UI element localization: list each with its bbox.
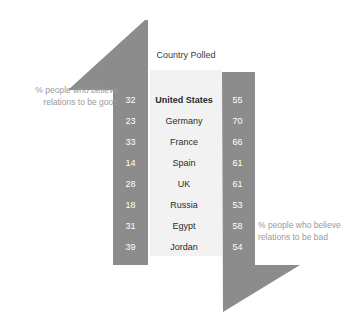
- table-row: 32 United States 55: [113, 90, 255, 111]
- good-value: 32: [113, 90, 148, 111]
- country-name: Egypt: [148, 216, 220, 237]
- country-name: France: [148, 132, 220, 153]
- table-row: 39 Jordan 54: [113, 237, 255, 258]
- good-axis-label: % people who believe relations to be goo…: [8, 84, 118, 108]
- good-value: 31: [113, 216, 148, 237]
- country-name: Spain: [148, 153, 220, 174]
- bad-value: 53: [220, 195, 255, 216]
- good-axis-label-line2: relations to be good: [8, 96, 118, 108]
- country-name: UK: [148, 174, 220, 195]
- bad-value: 61: [220, 174, 255, 195]
- bad-axis-label-line1: % people who believe: [258, 219, 362, 231]
- bad-value: 61: [220, 153, 255, 174]
- country-name: United States: [148, 90, 220, 111]
- table-row: 14 Spain 61: [113, 153, 255, 174]
- bad-axis-label: % people who believe relations to be bad: [258, 219, 362, 243]
- table-row: 23 Germany 70: [113, 111, 255, 132]
- table-row: 31 Egypt 58: [113, 216, 255, 237]
- country-name: Germany: [148, 111, 220, 132]
- country-column-header: Country Polled: [150, 50, 222, 60]
- good-value: 23: [113, 111, 148, 132]
- bad-value: 55: [220, 90, 255, 111]
- bad-value: 70: [220, 111, 255, 132]
- good-axis-label-line1: % people who believe: [8, 84, 118, 96]
- country-name: Jordan: [148, 237, 220, 258]
- good-value: 39: [113, 237, 148, 258]
- good-value: 14: [113, 153, 148, 174]
- bad-value: 58: [220, 216, 255, 237]
- bad-axis-label-line2: relations to be bad: [258, 231, 362, 243]
- good-value: 18: [113, 195, 148, 216]
- bad-value: 66: [220, 132, 255, 153]
- data-rows: 32 United States 55 23 Germany 70 33 Fra…: [113, 90, 255, 258]
- table-row: 28 UK 61: [113, 174, 255, 195]
- good-value: 33: [113, 132, 148, 153]
- chart-canvas: Country Polled 32 United States 55 23 Ge…: [0, 0, 363, 330]
- table-row: 33 France 66: [113, 132, 255, 153]
- table-row: 18 Russia 53: [113, 195, 255, 216]
- bad-value: 54: [220, 237, 255, 258]
- country-name: Russia: [148, 195, 220, 216]
- good-value: 28: [113, 174, 148, 195]
